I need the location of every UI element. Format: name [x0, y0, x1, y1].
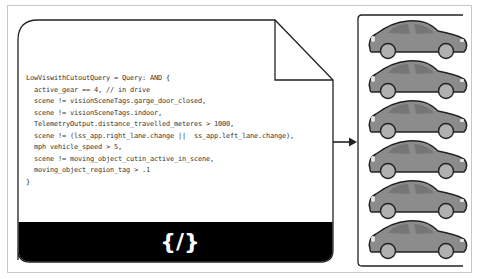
car-icon: [369, 181, 466, 219]
car-icon: [369, 101, 466, 139]
code-line: scene != visionSceneTags.garge_door_clos…: [26, 97, 206, 105]
car-icon: [369, 221, 466, 259]
query-code: LowViswithCutoutQuery = Query: AND { act…: [26, 73, 294, 188]
code-line: scene != moving_object_cutin_active_in_s…: [26, 155, 214, 163]
code-line: active_gear == 4, // in drive: [26, 86, 150, 94]
arrow-right-icon: [333, 138, 357, 147]
car-icon: [369, 61, 466, 99]
car-icon: [369, 21, 466, 59]
code-line: moving_object_region_tag > .1: [26, 166, 150, 174]
code-line: LowViswithCutoutQuery = Query: AND {: [26, 74, 170, 82]
code-line: scene != (lss_app.right_lane.change || s…: [26, 132, 294, 140]
code-line: TelemetryOutput.distance_travelled_meter…: [26, 120, 234, 128]
code-line: scene != visionSceneTags.indoor,: [26, 109, 162, 117]
code-line: }: [26, 178, 30, 186]
code-icon: {/}: [150, 227, 210, 257]
code-line: mph vehicle_speed > 5,: [26, 143, 122, 151]
car-icon: [369, 141, 466, 179]
